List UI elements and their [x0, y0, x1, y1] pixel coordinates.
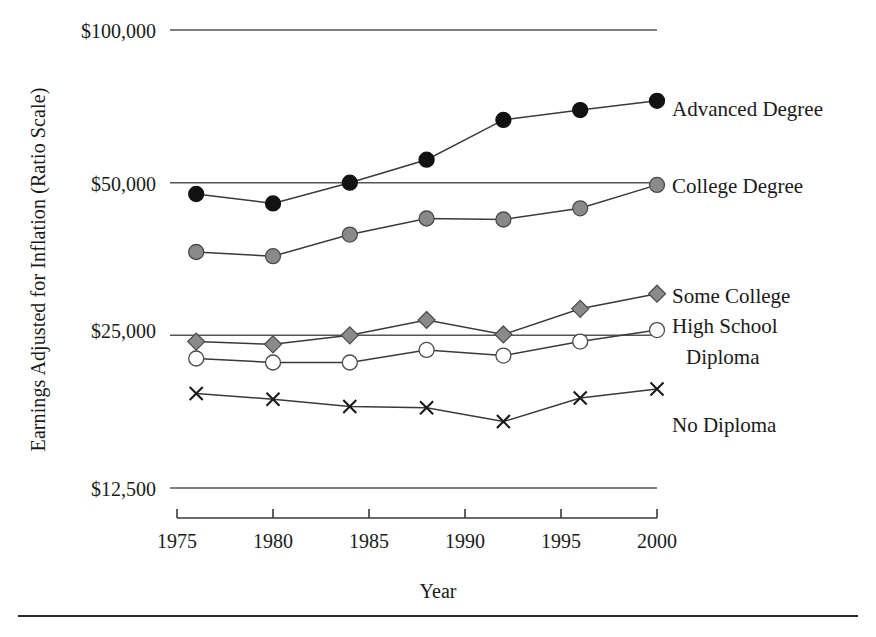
data-point-high-school-diploma-1980 [266, 355, 281, 370]
data-point-college-degree-2000 [650, 177, 665, 192]
footer-rule [18, 615, 858, 617]
data-point-college-degree-1980 [266, 249, 281, 264]
x-axis [177, 509, 657, 518]
data-point-advanced-degree-1976 [189, 187, 204, 202]
data-point-high-school-diploma-1992 [496, 348, 511, 363]
data-point-some-college-1980 [265, 336, 282, 353]
data-point-advanced-degree-2000 [650, 93, 665, 108]
data-point-college-degree-1996 [573, 201, 588, 216]
data-point-high-school-diploma-2000 [650, 323, 665, 338]
data-point-some-college-1996 [572, 300, 589, 317]
data-point-some-college-2000 [649, 285, 666, 302]
series-group [188, 93, 666, 428]
data-point-some-college-1992 [495, 326, 512, 343]
series-line-no-diploma [196, 389, 657, 422]
data-point-high-school-diploma-1996 [573, 334, 588, 349]
plot-area [0, 0, 876, 637]
data-point-no-diploma-1992 [497, 415, 510, 428]
data-point-advanced-degree-1992 [496, 112, 511, 127]
data-point-advanced-degree-1996 [573, 103, 588, 118]
data-point-college-degree-1976 [189, 245, 204, 260]
data-point-advanced-degree-1984 [342, 175, 357, 190]
data-point-advanced-degree-1980 [266, 196, 281, 211]
gridlines [170, 30, 657, 488]
data-point-some-college-1988 [418, 312, 435, 329]
data-point-high-school-diploma-1976 [189, 351, 204, 366]
data-point-college-degree-1984 [342, 227, 357, 242]
chart-figure: Earnings Adjusted for Inflation (Ratio S… [0, 0, 876, 637]
data-point-college-degree-1988 [419, 211, 434, 226]
data-point-college-degree-1992 [496, 212, 511, 227]
data-point-high-school-diploma-1988 [419, 342, 434, 357]
data-point-high-school-diploma-1984 [342, 355, 357, 370]
data-point-some-college-1984 [341, 327, 358, 344]
data-point-advanced-degree-1988 [419, 152, 434, 167]
